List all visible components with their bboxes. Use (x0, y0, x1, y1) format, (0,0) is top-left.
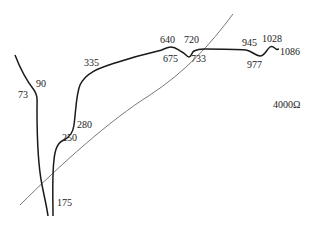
point-label-1028: 1028 (262, 33, 282, 44)
point-label-675: 675 (163, 53, 178, 64)
diagram-canvas: 73 90 335 280 250 175 640 675 720 733 94… (0, 0, 315, 229)
point-label-335: 335 (84, 57, 99, 68)
point-label-90: 90 (36, 78, 46, 89)
point-label-945: 945 (242, 37, 257, 48)
point-label-73: 73 (18, 89, 28, 100)
point-label-175: 175 (57, 197, 72, 208)
point-label-977: 977 (247, 59, 262, 70)
curve-main (53, 46, 279, 216)
diagonal-line (20, 14, 233, 205)
point-label-1086: 1086 (280, 46, 300, 57)
point-label-720: 720 (184, 34, 199, 45)
point-label-280: 280 (77, 119, 92, 130)
resistance-label: 4000Ω (273, 99, 300, 110)
point-label-250: 250 (62, 132, 77, 143)
point-label-733: 733 (191, 53, 206, 64)
point-label-640: 640 (160, 34, 175, 45)
